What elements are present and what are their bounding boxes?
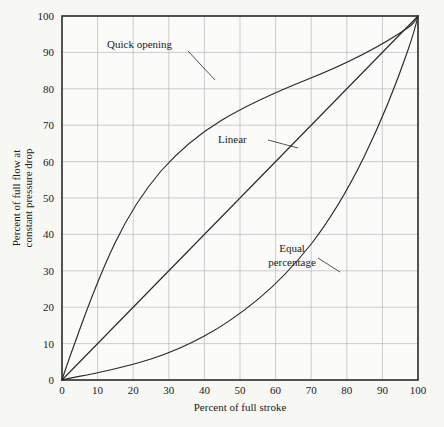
- y-tick-0: 0: [49, 374, 55, 386]
- x-axis-title: Percent of full stroke: [194, 401, 287, 413]
- y-tick-20: 20: [43, 301, 55, 313]
- x-tick-50: 50: [235, 384, 247, 396]
- chart-svg: 0 10 20 30 40 50 60 70 80 90 100 0 10 20…: [0, 0, 444, 427]
- y-tick-40: 40: [43, 228, 55, 240]
- valve-characteristic-chart: 0 10 20 30 40 50 60 70 80 90 100 0 10 20…: [0, 0, 444, 427]
- x-tick-40: 40: [199, 384, 211, 396]
- y-tick-70: 70: [43, 119, 55, 131]
- y-tick-30: 30: [43, 265, 55, 277]
- annotation-quick-opening-label: Quick opening: [107, 38, 173, 50]
- x-tick-20: 20: [128, 384, 140, 396]
- annotation-equal-percentage-line1: Equal: [279, 242, 305, 254]
- x-tick-30: 30: [163, 384, 175, 396]
- x-tick-100: 100: [410, 384, 427, 396]
- y-tick-100: 100: [38, 10, 55, 22]
- x-tick-80: 80: [341, 384, 353, 396]
- x-tick-70: 70: [306, 384, 318, 396]
- x-tick-0: 0: [59, 384, 65, 396]
- x-tick-60: 60: [270, 384, 282, 396]
- y-tick-10: 10: [43, 338, 55, 350]
- y-axis-title-line1: Percent of full flow at: [10, 150, 22, 247]
- y-tick-90: 90: [43, 46, 55, 58]
- annotation-equal-percentage-line2: percentage: [268, 256, 316, 268]
- y-tick-80: 80: [43, 83, 55, 95]
- x-tick-10: 10: [92, 384, 104, 396]
- annotation-linear-label: Linear: [218, 133, 247, 145]
- y-tick-60: 60: [43, 156, 55, 168]
- y-tick-50: 50: [43, 192, 55, 204]
- x-tick-90: 90: [377, 384, 389, 396]
- y-axis-title: Percent of full flow at constant pressur…: [10, 148, 34, 247]
- y-axis-title-line2: constant pressure drop: [22, 148, 34, 247]
